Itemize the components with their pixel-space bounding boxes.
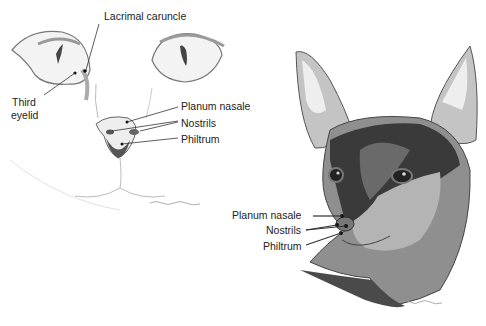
label-cat-lacrimal-caruncle: Lacrimal caruncle bbox=[104, 10, 186, 22]
label-dog-philtrum: Philtrum bbox=[263, 240, 302, 252]
cat-nose bbox=[96, 117, 139, 158]
dog-illustration bbox=[296, 46, 477, 307]
label-dog-nostrils: Nostrils bbox=[266, 224, 301, 236]
dog-left-eye bbox=[329, 168, 343, 182]
label-cat-philtrum: Philtrum bbox=[181, 133, 220, 145]
label-dog-planum-nasale: Planum nasale bbox=[232, 209, 301, 221]
label-cat-third-eyelid-line1: Third bbox=[12, 96, 36, 108]
cat-right-eye bbox=[152, 34, 224, 82]
dog-right-eye bbox=[392, 169, 412, 183]
label-cat-nostrils: Nostrils bbox=[181, 117, 216, 129]
label-cat-planum-nasale: Planum nasale bbox=[181, 100, 250, 112]
illustration-canvas bbox=[0, 0, 486, 326]
label-cat-third-eyelid-line2: eyelid bbox=[11, 109, 38, 121]
